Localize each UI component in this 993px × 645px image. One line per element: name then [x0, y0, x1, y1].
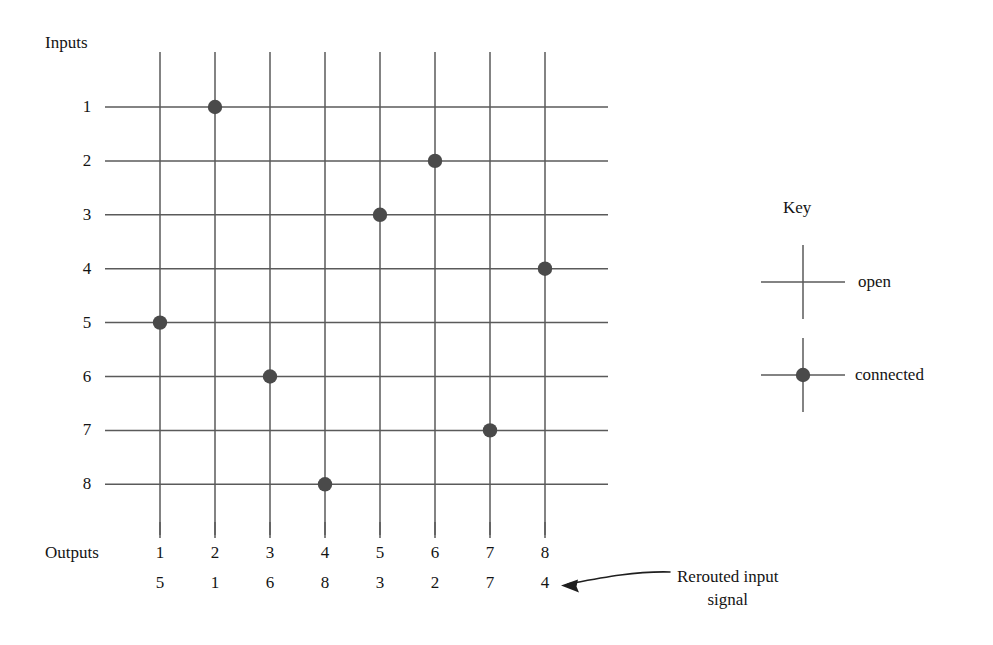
input-row-label-5: 5: [74, 314, 100, 331]
output-column-label-6: 6: [422, 544, 448, 561]
output-column-label-4: 4: [312, 544, 338, 561]
rerouted-signal-label-out7: 7: [477, 574, 503, 591]
rerouted-signal-label-out5: 3: [367, 574, 393, 591]
input-row-label-6: 6: [74, 368, 100, 385]
rerouted-signal-label-out6: 2: [422, 574, 448, 591]
rerouted-signal-annotation: Rerouted input signal: [677, 566, 779, 612]
outputs-axis-label: Outputs: [45, 544, 99, 561]
rerouted-signal-label-out4: 8: [312, 574, 338, 591]
input-row-label-8: 8: [74, 475, 100, 492]
connection-dot-in2-out6[interactable]: [428, 154, 442, 168]
rerouted-signal-label-out3: 6: [257, 574, 283, 591]
rerouted-signal-label-out2: 1: [202, 574, 228, 591]
output-column-label-3: 3: [257, 544, 283, 561]
connection-dot-in7-out7[interactable]: [483, 423, 497, 437]
key-open-label: open: [858, 273, 891, 290]
connection-dot-in8-out4[interactable]: [318, 477, 332, 491]
key-glyph-group: [761, 245, 845, 412]
key-title: Key: [783, 199, 811, 216]
input-row-label-1: 1: [74, 98, 100, 115]
inputs-axis-label: Inputs: [45, 34, 88, 51]
annotation-arrow-shaft: [568, 572, 670, 584]
output-column-label-5: 5: [367, 544, 393, 561]
input-row-label-3: 3: [74, 206, 100, 223]
input-row-label-4: 4: [74, 260, 100, 277]
annotation-line-2: signal: [677, 589, 779, 612]
key-connected-dot-icon: [796, 368, 810, 382]
connection-dot-in4-out8[interactable]: [538, 262, 552, 276]
annotation-arrow-head: [561, 580, 579, 593]
rerouted-signal-label-out1: 5: [147, 574, 173, 591]
connection-dot-in5-out1[interactable]: [153, 315, 167, 329]
connection-dot-in3-out5[interactable]: [373, 208, 387, 222]
output-tick-group: [160, 522, 545, 538]
output-column-label-7: 7: [477, 544, 503, 561]
crossbar-switch-diagram: Inputs Outputs 12345678 12345678 5168327…: [0, 0, 993, 645]
rerouted-signal-arrow: [561, 572, 670, 593]
output-column-label-2: 2: [202, 544, 228, 561]
connection-dot-in1-out2[interactable]: [208, 100, 222, 114]
output-column-label-8: 8: [532, 544, 558, 561]
rerouted-signal-label-out8: 4: [532, 574, 558, 591]
connection-dot-group: [153, 100, 552, 492]
output-column-label-1: 1: [147, 544, 173, 561]
input-row-label-2: 2: [74, 152, 100, 169]
annotation-line-1: Rerouted input: [677, 566, 779, 589]
input-row-label-7: 7: [74, 421, 100, 438]
connection-dot-in6-out3[interactable]: [263, 369, 277, 383]
key-connected-label: connected: [855, 366, 924, 383]
crossbar-grid: [105, 52, 608, 535]
